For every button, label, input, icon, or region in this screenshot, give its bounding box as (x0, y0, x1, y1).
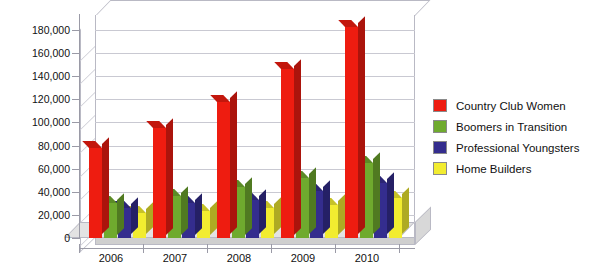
chart-container: 020,00040,00060,00080,000100,000120,0001… (0, 0, 615, 277)
y-axis-tick (72, 99, 80, 100)
legend-label: Professional Youngsters (456, 142, 579, 154)
bar-side-face (294, 59, 301, 234)
bar-side-face (259, 190, 266, 235)
bar (89, 148, 102, 238)
bar (153, 128, 166, 238)
y-axis-tick (72, 238, 80, 239)
y-axis-tick (72, 192, 80, 193)
y-axis-tick-label: 20,000 (8, 210, 70, 220)
bar-front-face (153, 128, 166, 238)
legend-label: Country Club Women (456, 100, 566, 112)
legend-label: Boomers in Transition (456, 121, 567, 133)
bar-side-face (358, 16, 365, 234)
y-axis-tick (72, 76, 80, 77)
y-axis-tick (72, 122, 80, 123)
chart-legend: Country Club WomenBoomers in TransitionP… (433, 95, 579, 179)
legend-swatch (433, 99, 447, 112)
x-axis-tick-label: 2008 (207, 252, 271, 264)
bar-side-face (387, 172, 394, 234)
legend-item[interactable]: Home Builders (433, 158, 579, 179)
bar-side-face (102, 138, 109, 235)
bar-front-face (217, 102, 230, 238)
legend-swatch (433, 162, 447, 175)
bar-front-face (345, 27, 358, 238)
y-axis-tick-label: 140,000 (8, 71, 70, 81)
bar-side-face (117, 193, 124, 234)
legend-swatch (433, 141, 447, 154)
y-axis-tick (72, 53, 80, 54)
bar-side-face (195, 193, 202, 234)
y-axis-tick-label: 0 (8, 233, 70, 243)
legend-item[interactable]: Boomers in Transition (433, 116, 579, 137)
y-axis-tick-label: 180,000 (8, 25, 70, 35)
bar-side-face (323, 180, 330, 234)
x-axis-tick-label: 2007 (143, 252, 207, 264)
bar-side-face (402, 187, 409, 234)
y-axis-tick-label: 40,000 (8, 187, 70, 197)
legend-item[interactable]: Professional Youngsters (433, 137, 579, 158)
x-axis-tick-label: 2009 (271, 252, 335, 264)
legend-label: Home Builders (456, 163, 531, 175)
bar-front-face (281, 69, 294, 238)
legend-item[interactable]: Country Club Women (433, 95, 579, 116)
bar-side-face (373, 153, 380, 235)
y-axis-labels: 020,00040,00060,00080,000100,000120,0001… (0, 0, 70, 277)
y-axis-tick (72, 146, 80, 147)
x-axis-tick-label: 2010 (335, 252, 399, 264)
legend-swatch (433, 120, 447, 133)
y-axis-tick (72, 169, 80, 170)
bar (281, 69, 294, 238)
y-axis-tick (72, 215, 80, 216)
y-axis-tick-label: 60,000 (8, 164, 70, 174)
x-axis-tick (399, 244, 400, 253)
x-axis-tick-label: 2006 (79, 252, 143, 264)
y-axis-tick-label: 80,000 (8, 141, 70, 151)
bar-side-face (181, 186, 188, 234)
y-axis-tick-label: 120,000 (8, 94, 70, 104)
bar-front-face (89, 148, 102, 238)
bar-side-face (166, 118, 173, 235)
y-axis-tick-label: 100,000 (8, 117, 70, 127)
y-axis-tick (72, 30, 80, 31)
y-axis-tick-label: 160,000 (8, 48, 70, 58)
bar-side-face (230, 91, 237, 234)
bar (345, 27, 358, 238)
bar (217, 102, 230, 238)
bar-side-face (245, 177, 252, 235)
x-axis-line (79, 248, 415, 249)
plot-area: 020,00040,00060,00080,000100,000120,0001… (0, 0, 430, 277)
y-axis-line (79, 14, 80, 239)
bar-top-face (338, 20, 358, 27)
bar-side-face (338, 194, 345, 234)
